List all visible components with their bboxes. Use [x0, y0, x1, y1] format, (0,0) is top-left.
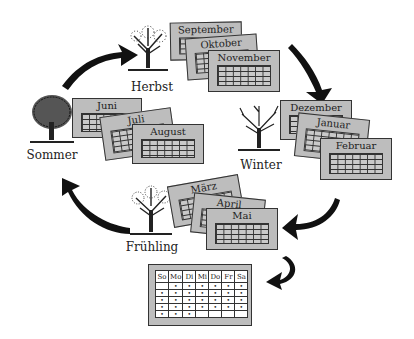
day-cell: •	[183, 311, 196, 318]
day-header: Mo	[169, 271, 183, 283]
season-label-winter: Winter	[236, 158, 286, 172]
month-card-november: November	[208, 50, 280, 92]
arrow-winter-to-fruehling	[282, 198, 340, 240]
day-header: Do	[209, 271, 222, 283]
day-cell	[235, 311, 248, 318]
arrow-herbst-to-winter	[288, 44, 332, 104]
month-card-mai: Mai	[206, 208, 278, 250]
day-cell: •	[196, 304, 209, 311]
day-cell: •	[169, 311, 183, 318]
day-cell: •	[209, 304, 222, 311]
week-table: So Mo Di Mi Do Fr Sa • • • • • • • • • •…	[155, 270, 248, 318]
month-card-august: August	[132, 124, 204, 164]
week-row: • • • • • • •	[156, 304, 248, 311]
arrow-fruehling-to-sommer	[62, 178, 130, 234]
week-calendar: So Mo Di Mi Do Fr Sa • • • • • • • • • •…	[148, 264, 252, 326]
season-label-sommer: Sommer	[24, 148, 80, 162]
arrow-to-week-calendar	[266, 256, 295, 290]
day-header: Fr	[222, 271, 235, 283]
season-label-fruehling: Frühling	[124, 240, 180, 254]
day-header: Sa	[235, 271, 248, 283]
day-cell: •	[235, 304, 248, 311]
season-label-herbst: Herbst	[130, 80, 174, 94]
day-header: So	[156, 271, 169, 283]
month-card-februar: Februar	[320, 138, 392, 180]
tree-winter-icon	[236, 104, 282, 154]
day-cell	[209, 311, 222, 318]
day-cell: •	[222, 304, 235, 311]
day-cell	[196, 311, 209, 318]
day-header: Mi	[196, 271, 209, 283]
week-row: • • •	[156, 311, 248, 318]
tree-sommer-icon	[28, 92, 76, 146]
day-cell: •	[156, 311, 169, 318]
day-cell	[222, 311, 235, 318]
tree-herbst-icon	[124, 24, 172, 74]
day-header: Di	[183, 271, 196, 283]
